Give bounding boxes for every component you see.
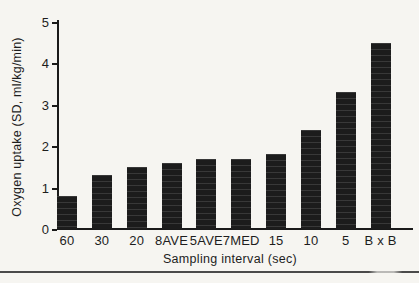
y-tick-mark bbox=[52, 229, 57, 231]
page-divider-line bbox=[0, 271, 419, 273]
bar bbox=[92, 175, 112, 229]
y-tick-label: 3 bbox=[21, 99, 49, 113]
x-tick-label: B x B bbox=[349, 233, 413, 248]
y-tick-label: 4 bbox=[21, 57, 49, 71]
plot-area: 012345 6030208AVE5AVE7MED15105B x B bbox=[57, 23, 413, 230]
bar bbox=[371, 43, 391, 229]
y-tick-mark bbox=[52, 188, 57, 190]
scanned-figure-page: Oxygen uptake (SD, ml/kg/min) 012345 603… bbox=[0, 0, 419, 283]
bar bbox=[266, 154, 286, 229]
y-tick-mark bbox=[52, 63, 57, 65]
bar bbox=[196, 159, 216, 229]
bar bbox=[127, 167, 147, 229]
bar bbox=[336, 92, 356, 229]
y-tick-mark bbox=[52, 105, 57, 107]
y-tick-mark bbox=[52, 146, 57, 148]
bar bbox=[231, 159, 251, 229]
bar bbox=[57, 196, 77, 229]
x-axis-title: Sampling interval (sec) bbox=[163, 252, 297, 266]
y-tick-mark bbox=[52, 22, 57, 24]
bar bbox=[301, 130, 321, 229]
y-tick-label: 1 bbox=[21, 182, 49, 196]
y-tick-label: 2 bbox=[21, 140, 49, 154]
y-tick-label: 5 bbox=[21, 16, 49, 30]
bar bbox=[162, 163, 182, 229]
